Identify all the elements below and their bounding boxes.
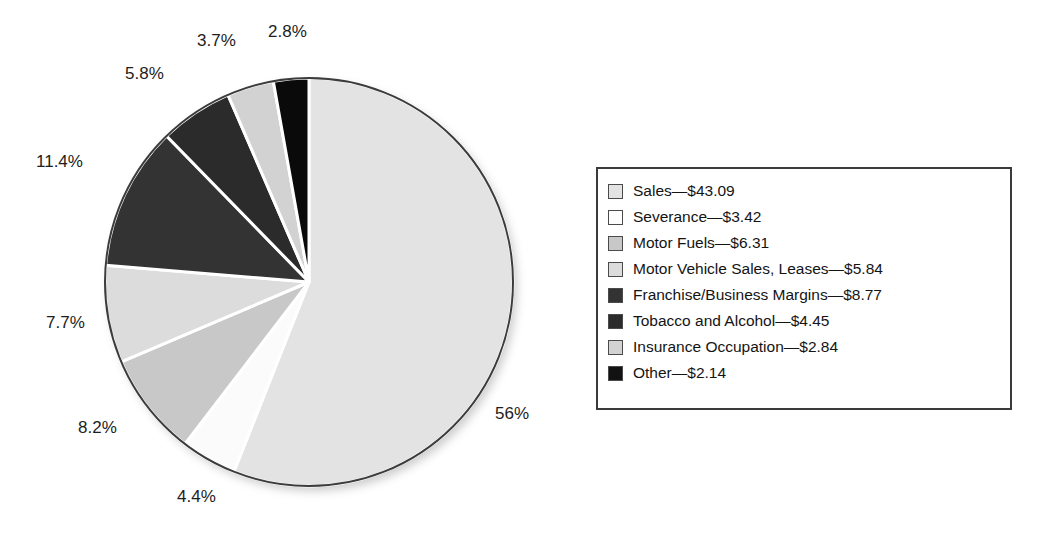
legend-item-label: Motor Fuels—$6.31 — [633, 235, 769, 251]
pie-percent-label: 2.8% — [268, 22, 307, 42]
pie-percent-label: 11.4% — [36, 152, 83, 172]
legend-item[interactable]: Tobacco and Alcohol—$4.45 — [608, 308, 1004, 334]
legend-color-swatch — [608, 288, 623, 303]
legend-item-label: Motor Vehicle Sales, Leases—$5.84 — [633, 261, 883, 277]
legend-item-label: Insurance Occupation—$2.84 — [633, 339, 838, 355]
pie-chart-figure: 2.8%3.7%5.8%11.4%7.7%8.2%4.4%56% Sales—$… — [0, 0, 1048, 535]
legend-item-label: Tobacco and Alcohol—$4.45 — [633, 313, 829, 329]
legend-item-list: Sales—$43.09Severance—$3.42Motor Fuels—$… — [608, 178, 1004, 386]
legend-item-label: Franchise/Business Margins—$8.77 — [633, 287, 882, 303]
pie-slices-group — [105, 78, 513, 486]
legend-item-label: Sales—$43.09 — [633, 183, 735, 199]
pie-chart-svg — [0, 0, 580, 535]
legend-item[interactable]: Insurance Occupation—$2.84 — [608, 334, 1004, 360]
legend-color-swatch — [608, 236, 623, 251]
chart-legend: Sales—$43.09Severance—$3.42Motor Fuels—$… — [596, 167, 1012, 410]
legend-item-label: Other—$2.14 — [633, 365, 726, 381]
legend-item[interactable]: Severance—$3.42 — [608, 204, 1004, 230]
legend-color-swatch — [608, 366, 623, 381]
pie-percent-label: 7.7% — [46, 313, 85, 333]
legend-item[interactable]: Other—$2.14 — [608, 360, 1004, 386]
legend-item[interactable]: Motor Fuels—$6.31 — [608, 230, 1004, 256]
pie-chart-plot-area: 2.8%3.7%5.8%11.4%7.7%8.2%4.4%56% — [0, 0, 580, 535]
legend-color-swatch — [608, 340, 623, 355]
pie-percent-label: 56% — [495, 404, 529, 424]
pie-percent-label: 8.2% — [78, 418, 117, 438]
pie-percent-label: 5.8% — [125, 64, 164, 84]
legend-item-label: Severance—$3.42 — [633, 209, 761, 225]
pie-percent-label: 4.4% — [177, 487, 216, 507]
legend-item[interactable]: Motor Vehicle Sales, Leases—$5.84 — [608, 256, 1004, 282]
legend-item[interactable]: Sales—$43.09 — [608, 178, 1004, 204]
legend-color-swatch — [608, 184, 623, 199]
legend-color-swatch — [608, 262, 623, 277]
legend-color-swatch — [608, 314, 623, 329]
legend-item[interactable]: Franchise/Business Margins—$8.77 — [608, 282, 1004, 308]
pie-percent-label: 3.7% — [197, 31, 236, 51]
legend-color-swatch — [608, 210, 623, 225]
